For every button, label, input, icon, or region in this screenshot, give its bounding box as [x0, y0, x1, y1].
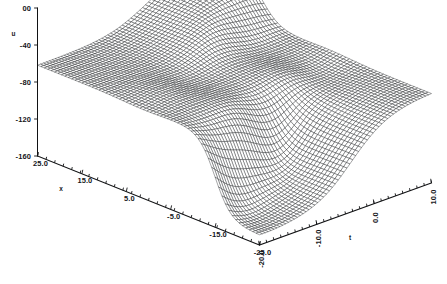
z-tick-label-2: -80	[20, 78, 31, 87]
t-tick-label-2: -10.0	[314, 230, 323, 248]
x-tick-label-0: 25.0	[33, 159, 48, 168]
x-axis-name: x	[59, 185, 63, 192]
x-tick-label-2: 5.0	[124, 194, 135, 203]
x-tick-label-4: -15.0	[209, 230, 227, 239]
z-tick-label-4: -160	[16, 152, 31, 161]
z-tick-label-0: 00	[22, 4, 31, 13]
z-axis-name: u	[12, 30, 16, 37]
t-tick-label-0: 10.0	[429, 190, 438, 205]
z-tick-label-1: -40	[20, 41, 31, 50]
surface-plot-figure: 00-40-80-120-160u25.015.05.0-5.0-15.0-25…	[0, 0, 447, 284]
z-tick-label-3: -120	[16, 115, 31, 124]
plot-canvas: 00-40-80-120-160u25.015.05.0-5.0-15.0-25…	[0, 0, 447, 284]
x-tick-label-3: -5.0	[167, 212, 180, 221]
x-tick-label-1: 15.0	[77, 176, 92, 185]
t-tick-label-3: -20.0	[257, 250, 266, 268]
t-tick-label-1: 0.0	[371, 212, 380, 223]
